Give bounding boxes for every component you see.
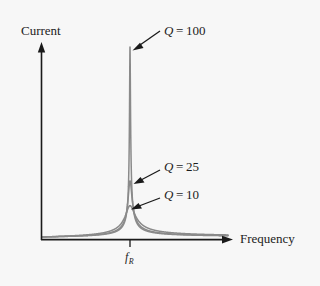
curve-q-10 xyxy=(42,206,228,237)
resonance-tick-subscript: R xyxy=(128,257,134,266)
y-axis-arrowhead xyxy=(38,42,45,53)
annotation-q-25-arrowhead xyxy=(134,177,145,184)
annotation-q-100-equals: = xyxy=(173,23,186,38)
annotation-q-100-leader xyxy=(140,31,160,45)
annotation-q-100: Q = 100 xyxy=(133,23,206,51)
resonance-curve-figure: Current Frequency fR Q = 100 Q = 25 Q = … xyxy=(0,0,320,286)
resonance-plot: Current Frequency fR Q = 100 Q = 25 Q = … xyxy=(0,0,320,286)
annotation-q-10-value: 10 xyxy=(186,187,199,202)
annotation-q-10: Q = 10 xyxy=(131,187,199,210)
annotation-q-25-value: 25 xyxy=(186,159,199,174)
annotation-q-10-label: Q = 10 xyxy=(164,187,199,202)
annotation-q-25-equals: = xyxy=(173,159,186,174)
x-axis-arrowhead xyxy=(222,236,233,244)
annotation-q-10-leader xyxy=(139,198,160,206)
annotation-q-25: Q = 25 xyxy=(134,159,199,184)
y-axis-label: Current xyxy=(21,23,61,38)
resonance-tick-label: fR xyxy=(125,250,134,266)
annotation-q-100-value: 100 xyxy=(186,23,206,38)
annotation-q-25-label: Q = 25 xyxy=(164,159,199,174)
annotation-q-10-equals: = xyxy=(173,187,186,202)
annotation-q-25-leader xyxy=(141,170,160,180)
annotation-q-100-label: Q = 100 xyxy=(164,23,205,38)
x-axis-label: Frequency xyxy=(240,231,295,246)
